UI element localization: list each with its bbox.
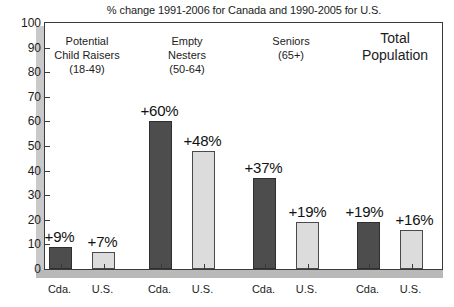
x-axis-tick-mark: [204, 264, 205, 269]
y-axis-tick-mark: [45, 97, 50, 98]
y-axis-tick-mark: [45, 220, 50, 221]
y-axis-tick-mark: [45, 121, 50, 122]
y-axis-tick-label: 50: [3, 140, 41, 152]
y-axis: 1009080706050403020100: [0, 0, 41, 307]
bar-cda: [149, 121, 172, 269]
bar-value-label: +9%: [39, 229, 81, 244]
bar-cda: [357, 222, 380, 269]
x-axis-tick-label: U.S.: [391, 283, 431, 295]
x-axis-tick-mark: [308, 264, 309, 269]
y-axis-tick-label: 80: [3, 66, 41, 78]
y-axis-tick-label: 100: [3, 17, 41, 29]
bar-value-label: +60%: [139, 103, 181, 118]
bar-value-label: +48%: [182, 133, 224, 148]
x-axis-tick-label: Cda.: [40, 283, 80, 295]
x-axis-tick-mark: [61, 264, 62, 269]
y-axis-tick-label: 20: [3, 214, 41, 226]
bar-us: [296, 222, 319, 269]
x-axis-tick-label: U.S.: [183, 283, 223, 295]
bar-us: [192, 151, 215, 269]
x-axis-tick-mark: [265, 264, 266, 269]
x-axis-tick-label: U.S.: [287, 283, 327, 295]
x-axis-tick-label: U.S.: [83, 283, 123, 295]
y-axis-tick-label: 60: [3, 115, 41, 127]
y-axis-tick-mark: [45, 195, 50, 196]
group-header-line: Total: [325, 30, 454, 47]
bar-cda: [253, 178, 276, 269]
y-axis-tick-label: 40: [3, 165, 41, 177]
bar-value-label: +7%: [82, 234, 124, 249]
bar-value-label: +19%: [287, 204, 329, 219]
bar-value-label: +37%: [243, 160, 285, 175]
chart-title: % change 1991-2006 for Canada and 1990-2…: [44, 4, 444, 17]
y-axis-tick-label: 10: [3, 238, 41, 250]
y-axis-tick-label: 70: [3, 91, 41, 103]
bar-value-label: +16%: [394, 212, 436, 227]
y-axis-tick-mark: [45, 146, 50, 147]
group-header: TotalPopulation: [325, 30, 454, 64]
x-axis-tick-mark: [412, 264, 413, 269]
group-header-line: (50-64): [117, 62, 257, 76]
baseline-shadow-artifact: [36, 270, 443, 278]
y-axis-tick-label: 0: [3, 263, 41, 275]
group-header-line: Population: [325, 47, 454, 64]
x-axis-tick-label: Cda.: [244, 283, 284, 295]
x-axis-tick-label: Cda.: [348, 283, 388, 295]
x-axis-tick-mark: [369, 264, 370, 269]
y-axis-tick-label: 30: [3, 189, 41, 201]
x-axis-tick-label: Cda.: [140, 283, 180, 295]
y-axis-tick-label: 90: [3, 42, 41, 54]
x-axis-tick-mark: [104, 264, 105, 269]
bar-value-label: +19%: [344, 204, 386, 219]
x-axis-tick-mark: [161, 264, 162, 269]
y-axis-tick-mark: [45, 171, 50, 172]
